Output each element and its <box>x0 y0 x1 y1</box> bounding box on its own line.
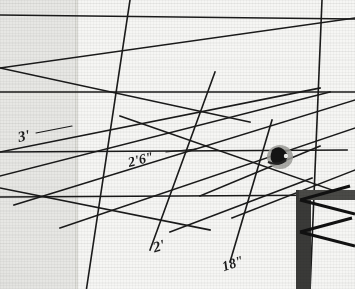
page-bottom-margin <box>0 289 355 305</box>
photograph: 3'2'6"2'18" <box>0 0 355 292</box>
h-top <box>0 15 355 19</box>
d-12 <box>120 116 355 198</box>
ink-smudge-group <box>267 145 293 169</box>
d-8 <box>86 0 130 292</box>
line-drawing <box>0 0 355 292</box>
d-1 <box>0 18 355 68</box>
d-13 <box>200 146 320 196</box>
corner-post-group <box>296 186 355 292</box>
d-5 <box>0 188 210 230</box>
leader-3ft <box>36 126 72 133</box>
smudge-highlight <box>284 154 288 158</box>
scan-canvas: 3'2'6"2'18" <box>0 0 355 305</box>
corner-post <box>296 190 311 292</box>
d-9 <box>150 72 215 250</box>
d-2 <box>0 68 250 122</box>
leader-lines <box>36 126 196 152</box>
d-10 <box>230 120 272 262</box>
